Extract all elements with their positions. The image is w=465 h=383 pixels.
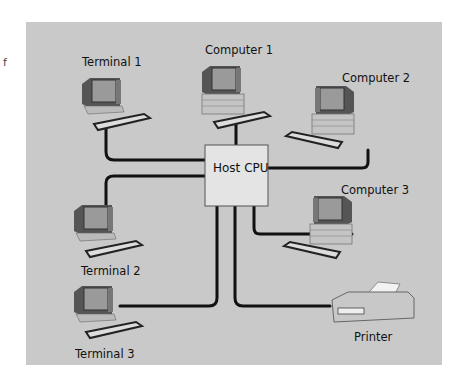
- computer-2-icon: [286, 86, 354, 148]
- terminal-1-label: Terminal 1: [82, 55, 142, 69]
- terminal-1-icon: [82, 78, 150, 130]
- printer-label: Printer: [354, 330, 392, 344]
- computer-1-label: Computer 1: [205, 43, 273, 57]
- host-cpu-box: [205, 145, 268, 206]
- terminal-2-icon: [74, 205, 142, 257]
- computer-2-label: Computer 2: [342, 71, 410, 85]
- terminal-2-label: Terminal 2: [81, 264, 141, 278]
- computer-3-label: Computer 3: [341, 183, 409, 197]
- terminal-3-icon: [74, 286, 142, 338]
- computer-1-icon: [202, 66, 270, 128]
- terminal-3-label: Terminal 3: [75, 347, 135, 361]
- computer-3-icon: [284, 196, 352, 258]
- host-cpu-label: Host CPU: [213, 161, 269, 175]
- printer-icon: [332, 282, 414, 322]
